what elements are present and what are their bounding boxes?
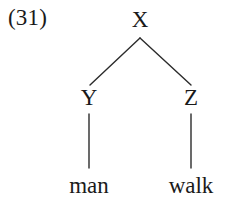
tree-leaf-man: man [69, 174, 109, 197]
tree-node-z: Z [184, 86, 198, 109]
edge-x-to-y [90, 38, 140, 85]
tree-node-y: Y [81, 86, 98, 109]
edge-x-to-z [140, 38, 191, 85]
tree-node-root: X [132, 8, 149, 31]
example-number-label: (31) [8, 6, 47, 29]
syntax-tree-figure: (31) X Y Z man walk [0, 0, 230, 202]
tree-leaf-walk: walk [169, 174, 214, 197]
